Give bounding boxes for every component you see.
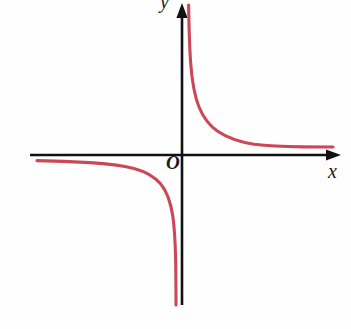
x-axis-arrowhead: [326, 149, 341, 160]
y-axis-label: y: [160, 0, 169, 11]
hyperbola-branch-upper-right: [189, 5, 333, 147]
y-axis-arrowhead: [176, 3, 187, 18]
origin-label: O: [166, 153, 180, 172]
hyperbola-figure: y x O: [0, 0, 351, 329]
x-axis-label: x: [328, 161, 337, 181]
hyperbola-branch-lower-left: [37, 161, 176, 305]
